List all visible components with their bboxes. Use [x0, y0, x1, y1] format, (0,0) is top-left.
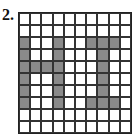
grid-cell	[109, 25, 120, 37]
grid-cell	[97, 25, 108, 37]
grid-cell	[75, 73, 86, 85]
grid-cell	[120, 85, 131, 97]
grid-cell-shaded	[97, 61, 108, 73]
grid-cell	[109, 85, 120, 97]
grid-cell-shaded	[53, 61, 64, 73]
grid-cell	[86, 121, 97, 133]
grid-cell	[64, 49, 75, 61]
grid-cell	[53, 121, 64, 133]
grid-cell	[64, 73, 75, 85]
grid-cell	[109, 49, 120, 61]
grid-cell	[41, 97, 52, 109]
grid-cell	[41, 49, 52, 61]
grid-cell	[120, 13, 131, 25]
grid-cell	[86, 109, 97, 121]
problem-number: 2.	[2, 6, 14, 24]
grid-cell-shaded	[19, 73, 30, 85]
grid-cell-shaded	[97, 73, 108, 85]
grid-cell-shaded	[53, 85, 64, 97]
grid-cell-shaded	[109, 97, 120, 109]
grid-cell	[41, 13, 52, 25]
grid-cell	[120, 37, 131, 49]
grid-cell	[30, 49, 41, 61]
grid-cell	[41, 73, 52, 85]
grid-cell	[53, 25, 64, 37]
grid-cell-shaded	[86, 37, 97, 49]
grid-cell	[120, 49, 131, 61]
grid-cell-shaded	[19, 85, 30, 97]
grid-cell-shaded	[86, 97, 97, 109]
grid-cell	[41, 25, 52, 37]
grid-cell	[53, 13, 64, 25]
grid-cell-shaded	[19, 61, 30, 73]
grid-cell	[86, 13, 97, 25]
grid-cell	[109, 13, 120, 25]
grid-cell	[30, 121, 41, 133]
grid-cell-shaded	[97, 49, 108, 61]
grid-cell	[30, 13, 41, 25]
grid-cell	[30, 37, 41, 49]
grid-cell	[86, 49, 97, 61]
grid-cell	[75, 85, 86, 97]
grid-cell	[86, 85, 97, 97]
grid-cell-shaded	[97, 37, 108, 49]
grid-cell	[64, 109, 75, 121]
grid-cell	[64, 25, 75, 37]
grid-cell	[120, 61, 131, 73]
shaded-grid	[18, 12, 132, 134]
grid-cell	[64, 85, 75, 97]
grid-cell	[64, 37, 75, 49]
grid-cell-shaded	[30, 61, 41, 73]
grid-cell	[120, 73, 131, 85]
grid-cell-shaded	[97, 85, 108, 97]
grid-cell-shaded	[19, 97, 30, 109]
grid-cell	[109, 109, 120, 121]
grid-cell	[120, 25, 131, 37]
grid-cell	[19, 121, 30, 133]
grid-cell	[30, 25, 41, 37]
grid-cell	[75, 49, 86, 61]
grid-cell-shaded	[97, 97, 108, 109]
grid-cell	[30, 109, 41, 121]
grid-cell-shaded	[19, 49, 30, 61]
grid-cell	[75, 109, 86, 121]
grid-cell	[41, 85, 52, 97]
grid-cell	[109, 121, 120, 133]
grid-cell	[64, 121, 75, 133]
grid-cell-shaded	[53, 37, 64, 49]
grid-cell	[64, 61, 75, 73]
grid-cell	[109, 61, 120, 73]
grid-cell	[53, 109, 64, 121]
grid-cell-shaded	[109, 37, 120, 49]
grid-cell	[75, 121, 86, 133]
grid-cell	[109, 73, 120, 85]
grid-cell	[41, 37, 52, 49]
grid-cell	[97, 109, 108, 121]
grid-cell	[75, 25, 86, 37]
grid-cell	[75, 13, 86, 25]
grid-cell	[64, 97, 75, 109]
grid-cell	[120, 109, 131, 121]
grid-cell	[86, 61, 97, 73]
grid-cell	[30, 97, 41, 109]
grid-cell	[19, 25, 30, 37]
grid-cell	[19, 13, 30, 25]
grid-cell	[75, 37, 86, 49]
grid-cell	[64, 13, 75, 25]
grid-cell-shaded	[53, 97, 64, 109]
grid-cell	[120, 121, 131, 133]
grid-cell	[120, 97, 131, 109]
grid-cell-shaded	[19, 37, 30, 49]
grid-cell-shaded	[53, 49, 64, 61]
grid-cell	[75, 61, 86, 73]
grid-cell	[97, 13, 108, 25]
grid-cell-shaded	[41, 61, 52, 73]
grid-cell	[97, 121, 108, 133]
grid-cell	[41, 109, 52, 121]
grid-cell	[30, 73, 41, 85]
grid-cell	[86, 25, 97, 37]
grid-cell	[86, 73, 97, 85]
grid-cell-shaded	[53, 73, 64, 85]
grid-cell	[30, 85, 41, 97]
grid-cell	[19, 109, 30, 121]
